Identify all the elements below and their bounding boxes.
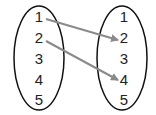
domain-element: 4 bbox=[31, 72, 47, 88]
domain-element: 1 bbox=[31, 9, 47, 25]
codomain-element: 4 bbox=[116, 72, 132, 88]
diagram-shapes bbox=[0, 0, 156, 115]
arrow-1-to-2 bbox=[46, 19, 118, 40]
codomain-element: 3 bbox=[116, 51, 132, 67]
codomain-element: 2 bbox=[116, 30, 132, 46]
domain-element: 2 bbox=[31, 30, 47, 46]
codomain-element: 5 bbox=[116, 92, 132, 108]
domain-element: 5 bbox=[31, 92, 47, 108]
domain-element: 3 bbox=[31, 51, 47, 67]
mapping-diagram: 1 2 3 4 5 1 2 3 4 5 bbox=[0, 0, 156, 115]
codomain-element: 1 bbox=[116, 9, 132, 25]
arrow-2-to-4 bbox=[46, 41, 118, 80]
